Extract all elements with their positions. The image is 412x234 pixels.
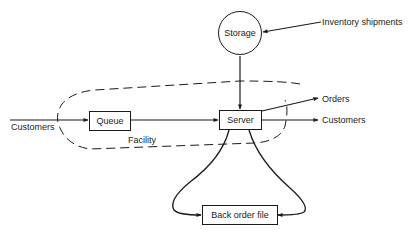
orders-label: Orders — [322, 95, 350, 104]
back-order-file-node: Back order file — [202, 205, 278, 225]
facility-label: Facility — [128, 136, 156, 145]
server-label: Server — [227, 115, 254, 125]
edge-server-to-backorder-right — [249, 130, 305, 215]
storage-node: Storage — [218, 11, 262, 55]
server-node: Server — [219, 110, 262, 130]
queue-node: Queue — [89, 111, 131, 131]
inventory-shipments-label: Inventory shipments — [322, 18, 403, 27]
storage-label: Storage — [224, 28, 256, 38]
queue-label: Queue — [96, 116, 123, 126]
edge-server-to-orders — [262, 98, 318, 111]
customers-out-label: Customers — [322, 116, 366, 125]
edge-inventory-to-storage — [263, 22, 321, 32]
edge-server-to-backorder-left — [173, 130, 229, 215]
customers-in-label: Customers — [11, 123, 55, 132]
back-order-file-label: Back order file — [211, 210, 269, 220]
